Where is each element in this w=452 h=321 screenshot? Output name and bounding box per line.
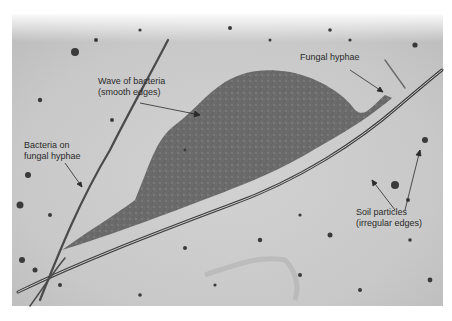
- label-line: (irregular edges): [356, 218, 422, 229]
- label-line: Bacteria on: [24, 140, 81, 151]
- label-bacteria-on-hyphae: Bacteria on fungal hyphae: [24, 140, 81, 162]
- label-line: Fungal hyphae: [300, 52, 360, 63]
- label-soil-particles: Soil particles (irregular edges): [356, 207, 422, 229]
- label-line: Soil particles: [356, 207, 422, 218]
- label-line: fungal hyphae: [24, 151, 81, 162]
- label-line: Wave of bacteria: [98, 76, 165, 87]
- label-wave-of-bacteria: Wave of bacteria (smooth edges): [98, 76, 165, 98]
- label-fungal-hyphae: Fungal hyphae: [300, 52, 360, 63]
- label-line: (smooth edges): [98, 87, 165, 98]
